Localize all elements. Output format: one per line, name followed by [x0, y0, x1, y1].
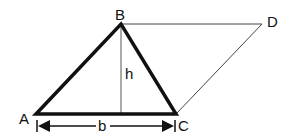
- arrowhead-left-icon: [38, 120, 50, 132]
- label-c: C: [178, 117, 189, 134]
- label-height: h: [125, 65, 133, 82]
- triangle-abc: [36, 24, 176, 114]
- label-a: A: [19, 110, 29, 127]
- segment-dc: [176, 24, 262, 114]
- label-base: b: [98, 117, 106, 134]
- triangle-diagram: A B C D h b: [0, 0, 291, 137]
- label-d: D: [267, 13, 278, 30]
- arrowhead-right-icon: [162, 120, 174, 132]
- label-b-vertex: B: [115, 6, 125, 23]
